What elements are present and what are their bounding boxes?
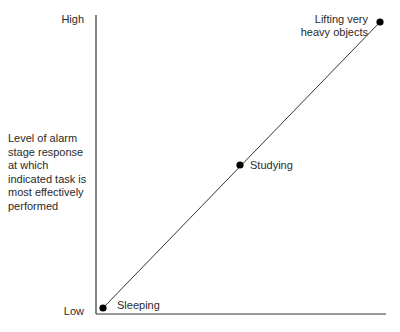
label-lifting-line2: heavy objects (268, 26, 368, 39)
label-sleeping: Sleeping (117, 299, 160, 312)
y-tick-low: Low (64, 305, 84, 318)
label-lifting-line1: Lifting very (268, 13, 368, 26)
y-axis-label: Level of alarm stage response at which i… (8, 132, 92, 213)
label-lifting: Lifting very heavy objects (268, 13, 368, 39)
point-studying (236, 161, 243, 168)
point-lifting (376, 18, 383, 25)
point-sleeping (99, 304, 106, 311)
y-tick-high: High (61, 13, 84, 26)
label-studying: Studying (250, 159, 293, 172)
